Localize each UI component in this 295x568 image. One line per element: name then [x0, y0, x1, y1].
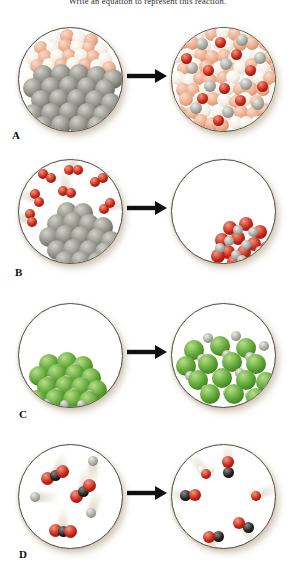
atom-sphere — [241, 240, 251, 250]
atom-sphere — [235, 95, 246, 106]
reactant-circle-b — [18, 159, 123, 264]
atom-sphere — [222, 456, 234, 468]
atom-sphere — [250, 116, 264, 130]
figure-caption: Write an equation to represent this reac… — [0, 0, 295, 6]
atom-sphere — [231, 49, 242, 60]
atom-sphere — [259, 341, 269, 351]
atom-sphere — [233, 225, 243, 235]
atom-sphere — [189, 489, 201, 501]
atom-sphere — [213, 115, 224, 126]
atom-sphere — [201, 469, 211, 479]
panel-label-a: A — [12, 129, 20, 141]
atom-sphere — [77, 400, 86, 409]
product-circle-d — [171, 444, 276, 549]
product-circle-c — [171, 303, 276, 408]
atom-sphere — [197, 93, 208, 104]
atom-sphere — [257, 81, 268, 92]
atom-sphere — [215, 37, 226, 48]
product-circle-a — [171, 27, 276, 132]
atom-sphere — [248, 227, 258, 237]
atom-sphere — [27, 217, 37, 227]
panel-label-c: C — [19, 408, 27, 420]
atom-sphere — [251, 491, 261, 501]
reaction-arrow-icon — [126, 485, 168, 501]
atom-sphere — [51, 115, 71, 132]
atom-sphere — [73, 165, 83, 175]
atom-sphere — [46, 173, 56, 183]
atom-sphere — [215, 243, 225, 253]
atom-sphere — [34, 197, 44, 207]
atom-sphere — [69, 115, 89, 132]
atom-sphere — [87, 116, 107, 132]
atom-sphere — [254, 52, 266, 64]
atom-sphere — [236, 34, 248, 46]
atom-sphere — [98, 173, 108, 183]
reactant-circle-a — [18, 27, 123, 132]
atom-sphere — [264, 117, 276, 131]
atom-sphere — [269, 82, 276, 96]
atom-sphere — [245, 65, 256, 76]
atom-sphere — [196, 38, 208, 50]
atom-sphere — [246, 388, 266, 408]
atom-sphere — [237, 255, 247, 264]
panel-label-b: B — [15, 266, 22, 278]
page-root: Write an equation to represent this reac… — [0, 0, 295, 568]
reaction-arrow-icon — [126, 68, 168, 84]
atom-sphere — [269, 104, 276, 118]
panel-label-d: D — [19, 548, 27, 560]
atom-sphere — [252, 98, 264, 110]
atom-sphere — [255, 246, 265, 256]
atom-sphere — [33, 116, 53, 132]
atom-sphere — [105, 198, 115, 208]
atom-sphere — [88, 456, 98, 466]
atom-sphere — [224, 384, 244, 404]
reactant-circle-c — [18, 303, 123, 408]
atom-sphere — [42, 399, 51, 408]
reaction-arrow-icon — [126, 344, 168, 360]
atom-sphere — [203, 65, 214, 76]
atom-sphere — [60, 400, 69, 409]
atom-sphere — [190, 102, 202, 114]
atom-sphere — [200, 384, 220, 404]
atom-sphere — [220, 58, 232, 70]
atom-sphere — [219, 83, 230, 94]
atom-sphere — [181, 53, 192, 64]
atom-sphere — [213, 531, 224, 542]
product-circle-b — [171, 159, 276, 264]
atom-sphere — [86, 508, 96, 518]
atom-sphere — [30, 492, 40, 502]
atom-sphere — [204, 80, 216, 92]
reactant-circle-d — [18, 444, 123, 549]
atom-sphere — [64, 525, 77, 538]
atom-sphere — [222, 106, 234, 118]
atom-sphere — [66, 188, 76, 198]
reaction-arrow-icon — [126, 200, 168, 216]
atom-sphere — [56, 465, 69, 478]
atom-sphere — [223, 467, 234, 478]
atom-sphere — [240, 78, 252, 90]
atom-sphere — [186, 62, 198, 74]
atom-sphere — [224, 236, 234, 246]
atom-sphere — [269, 38, 276, 52]
